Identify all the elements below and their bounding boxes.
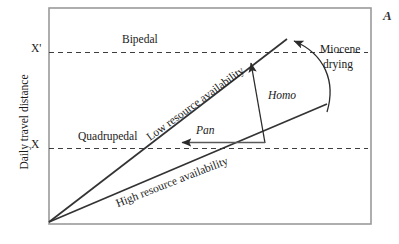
label-quadrupedal: Quadrupedal [78,131,137,143]
label-miocene-drying-line1: Miocene [320,44,360,56]
annotation-arrow-homo [251,63,265,143]
y-tick-label-x-prime: X' [31,43,41,55]
plot-frame [49,8,371,224]
diagram-canvas [0,0,399,244]
label-homo: Homo [268,90,296,102]
series-line-high-resource [49,104,327,222]
label-miocene-drying-line2: drying [323,59,353,71]
y-tick-label-x: X [31,139,39,151]
figure-panel: Daily travel distance X' X Bipedal Quadr… [0,0,399,244]
label-bipedal: Bipedal [122,34,158,46]
y-axis-title: Daily travel distance [16,0,32,244]
panel-label: A [383,9,392,22]
label-pan: Pan [196,125,215,137]
